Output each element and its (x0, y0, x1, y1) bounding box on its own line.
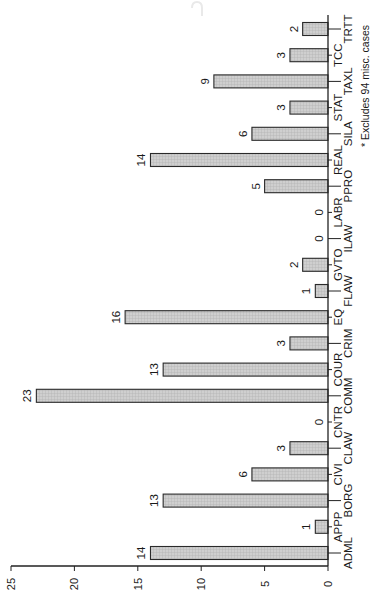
value-tick-label: 0 (322, 581, 334, 587)
category-label-tcc: TCC (332, 43, 344, 67)
bar-adml (150, 547, 328, 560)
data-label: 2 (288, 26, 300, 32)
category-label-eq: EQ (332, 309, 344, 326)
data-label: 13 (148, 494, 160, 507)
bar-ppro (265, 180, 328, 193)
value-axis: 0510152025 (5, 566, 334, 590)
bar-tcc (290, 49, 328, 62)
data-label: 0 (313, 419, 325, 425)
value-tick-label: 25 (5, 578, 17, 590)
bar-real (150, 154, 328, 167)
bar-borg (163, 494, 328, 507)
bar-appp (315, 520, 328, 533)
data-label: 2 (288, 262, 300, 268)
value-tick-label: 5 (259, 581, 271, 587)
footnote: * Excludes 94 misc. cases (359, 25, 371, 147)
data-label: 5 (250, 183, 262, 189)
bar-taxl (214, 75, 328, 88)
data-label: 6 (237, 131, 249, 137)
category-label-borg: BORG (342, 484, 354, 518)
category-label-real: REAL (332, 144, 344, 175)
bar-claw (290, 442, 328, 455)
category-label-trtt: TRTT (342, 14, 354, 43)
data-label: 16 (110, 311, 122, 324)
bar-gvto (303, 258, 328, 271)
bar-cour (163, 363, 328, 376)
category-label-sila: SILA (342, 121, 354, 146)
bar-crim (290, 337, 328, 350)
category-label-ilaw: ILAW (342, 225, 354, 253)
data-label: 6 (237, 471, 249, 477)
category-label-civi: CIVI (332, 463, 344, 485)
bar-civi (252, 468, 328, 481)
category-label-stat: STAT (332, 94, 344, 122)
data-label: 3 (275, 104, 287, 110)
data-label: 13 (148, 363, 160, 376)
bars-group (36, 23, 328, 560)
data-label: 1 (300, 288, 312, 294)
data-label: 23 (21, 389, 33, 402)
bar-stat (290, 101, 328, 114)
data-label: 3 (275, 340, 287, 346)
category-axis: ADMLAPPPBORGCIVICLAWCNTRCOMMCOURCRIMEQFL… (328, 14, 354, 569)
bar-comm (36, 389, 328, 402)
bar-chart: ADMLAPPPBORGCIVICLAWCNTRCOMMCOURCRIMEQFL… (0, 0, 378, 602)
data-label: 0 (313, 209, 325, 215)
data-label: 14 (135, 546, 147, 559)
data-label: 9 (199, 78, 211, 84)
data-label: 14 (135, 153, 147, 166)
value-tick-label: 15 (132, 578, 144, 590)
value-tick-label: 10 (195, 578, 207, 590)
bar-sila (252, 127, 328, 140)
data-label: 0 (313, 235, 325, 241)
value-tick-label: 20 (68, 578, 80, 590)
bar-trtt (303, 23, 328, 36)
bar-eq (125, 311, 328, 324)
data-label: 3 (275, 445, 287, 451)
category-label-taxl: TAXL (342, 67, 354, 96)
scan-artifact (192, 2, 202, 16)
category-label-crim: CRIM (342, 329, 354, 358)
data-label: 1 (300, 524, 312, 530)
bar-flaw (315, 285, 328, 298)
data-label: 3 (275, 52, 287, 58)
